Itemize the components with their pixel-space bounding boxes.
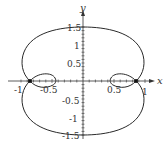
x-axis-arrow-icon bbox=[149, 79, 155, 83]
x-tick-label: 0.5 bbox=[107, 85, 122, 95]
x-axis-label: x bbox=[157, 75, 163, 86]
y-tick-label: -1.5 bbox=[62, 131, 80, 141]
y-tick-label: 0.5 bbox=[67, 59, 82, 69]
y-axis-label: y bbox=[79, 2, 86, 13]
y-tick-label: 1 bbox=[74, 41, 80, 51]
x-tick-label: -1 bbox=[14, 85, 23, 95]
y-tick-label: -0.5 bbox=[62, 96, 80, 106]
left-node-point bbox=[28, 79, 32, 83]
y-tick-label: -1 bbox=[69, 114, 78, 124]
right-node-point bbox=[134, 79, 138, 83]
curve-plot: x y -1 -0.5 0.5 1 1.5 bbox=[0, 0, 168, 148]
